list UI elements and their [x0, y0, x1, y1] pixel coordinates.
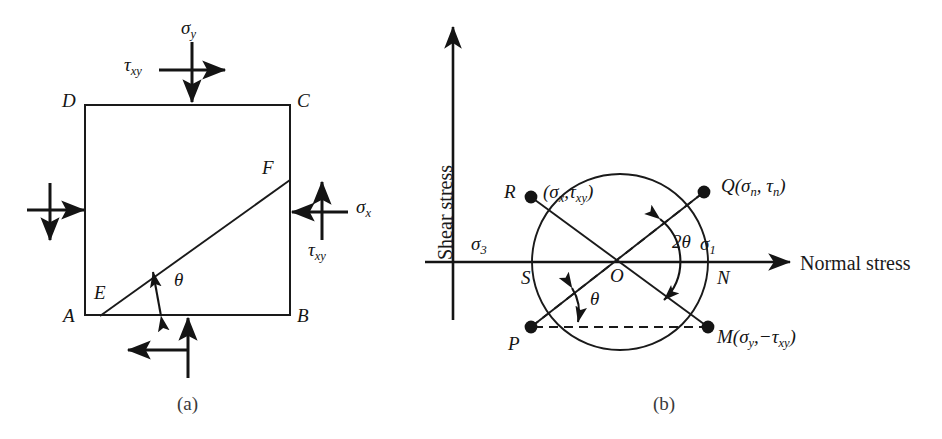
point-R-dot [525, 191, 538, 204]
normal-stress-axis-label: Normal stress [800, 252, 911, 275]
label-sigma-3: σ3 [471, 234, 487, 256]
label-theta-b: θ [590, 289, 599, 308]
label-tau-xy-right: τxy [308, 240, 326, 262]
label-point-M: M(σy,−τxy) [717, 327, 796, 349]
figure-root: σy τxy σx τxy D C A B E F θ R (σx,τxy) Q… [0, 0, 942, 439]
label-point-F: F [262, 158, 274, 177]
point-M-dot [702, 321, 715, 334]
label-two-theta: 2θ [672, 232, 691, 251]
right-stress-cross [292, 182, 348, 240]
point-P-dot [525, 321, 538, 334]
label-corner-C: C [297, 91, 310, 110]
inclined-plane-EF [100, 180, 290, 316]
label-theta-a: θ [174, 270, 183, 289]
label-point-N: N [717, 268, 730, 287]
label-corner-D: D [62, 91, 76, 110]
dashed-line-P-Q [531, 192, 704, 327]
label-sigma-x: σx [356, 197, 371, 219]
label-sigma-1: σ1 [700, 234, 716, 256]
label-point-P: P [508, 334, 520, 353]
top-stress-cross [159, 42, 225, 102]
label-corner-B: B [297, 306, 309, 325]
label-point-O: O [610, 266, 624, 285]
bottom-stress-cross [128, 318, 188, 378]
label-point-S: S [521, 268, 531, 287]
label-R-coordinates: (σx,τxy) [543, 182, 593, 204]
stress-element-square [85, 105, 290, 315]
point-Q-dot [698, 186, 711, 199]
label-point-R: R [504, 182, 516, 201]
label-point-E: E [94, 283, 106, 302]
label-corner-A: A [63, 306, 75, 325]
caption-a: (a) [177, 393, 198, 415]
shear-stress-axis-label: Shear stress [434, 165, 457, 260]
caption-b: (b) [653, 393, 675, 415]
left-stress-cross [27, 183, 84, 240]
label-sigma-y: σy [181, 18, 196, 40]
label-point-Q: Q(σn, τn) [721, 176, 786, 198]
label-tau-xy-top: τxy [124, 55, 142, 77]
theta-angle-indicator-a [153, 272, 161, 316]
